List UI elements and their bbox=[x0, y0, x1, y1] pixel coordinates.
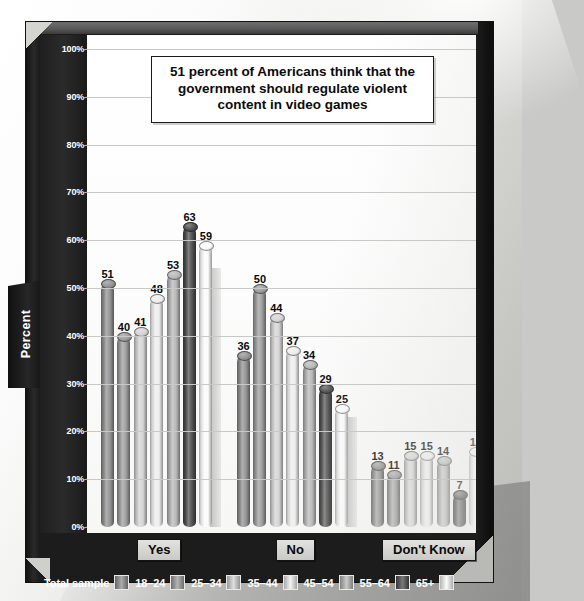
bar[interactable]: 15 bbox=[404, 455, 417, 527]
y-axis-tick-label: 30% bbox=[67, 379, 84, 389]
bar[interactable]: 15 bbox=[420, 455, 433, 527]
bar-value-label: 50 bbox=[254, 273, 266, 285]
chart-title: 51 percent of Americans think that the g… bbox=[160, 64, 425, 114]
bar[interactable]: 44 bbox=[270, 317, 283, 527]
legend-label: 35–44 bbox=[247, 577, 277, 589]
legend-swatch bbox=[114, 575, 129, 590]
frame-top-bevel bbox=[26, 22, 493, 34]
bar[interactable]: 14 bbox=[437, 460, 450, 527]
bar-body bbox=[303, 364, 316, 527]
legend-entry[interactable]: 65+ bbox=[416, 575, 454, 590]
gridline bbox=[87, 431, 476, 432]
title-callout-box: 51 percent of Americans think that the g… bbox=[151, 56, 434, 123]
bar-value-label: 36 bbox=[237, 340, 249, 352]
bar-value-label: 51 bbox=[101, 268, 113, 280]
legend-label: 45–54 bbox=[304, 577, 334, 589]
gridline bbox=[87, 192, 476, 193]
y-axis-title-tab: Percent bbox=[8, 280, 44, 388]
legend-swatch bbox=[339, 575, 354, 590]
bar-body bbox=[371, 465, 384, 527]
y-axis-tick-label: 70% bbox=[67, 187, 84, 197]
legend-entry[interactable]: 45–54 bbox=[304, 575, 354, 590]
bar[interactable]: 29 bbox=[319, 388, 332, 527]
legend-entry[interactable]: Total sample bbox=[44, 575, 129, 590]
bar-top-cap bbox=[469, 447, 476, 457]
legend-entry[interactable]: 35–44 bbox=[247, 575, 297, 590]
bar[interactable]: 16 bbox=[469, 451, 476, 527]
bar-value-label: 63 bbox=[183, 211, 195, 223]
legend-entry[interactable]: 25–34 bbox=[191, 575, 241, 590]
bar-top-cap bbox=[117, 332, 132, 342]
bar[interactable]: 34 bbox=[303, 364, 316, 527]
legend-entry[interactable]: 55–64 bbox=[360, 575, 410, 590]
legend-swatch bbox=[439, 575, 454, 590]
bar-top-cap bbox=[183, 222, 198, 232]
bar[interactable]: 13 bbox=[371, 465, 384, 527]
bar-value-label: 14 bbox=[437, 445, 449, 457]
legend-label: Total sample bbox=[44, 577, 109, 589]
bar[interactable]: 7 bbox=[453, 494, 466, 527]
gridline bbox=[87, 240, 476, 241]
bar[interactable]: 48 bbox=[150, 298, 163, 527]
bar[interactable]: 25 bbox=[335, 408, 348, 528]
bar[interactable]: 36 bbox=[237, 355, 250, 527]
bar-body bbox=[183, 226, 196, 527]
bar-body bbox=[335, 408, 348, 528]
legend-swatch bbox=[283, 575, 298, 590]
bar-top-cap bbox=[371, 461, 386, 471]
bar[interactable]: 11 bbox=[387, 474, 400, 527]
gridline bbox=[87, 145, 476, 146]
bar-top-cap bbox=[150, 294, 165, 304]
category-label-no: No bbox=[276, 539, 315, 561]
bar-top-cap bbox=[167, 270, 182, 280]
category-label-don-t-know: Don't Know bbox=[382, 539, 476, 561]
bar-body bbox=[101, 283, 114, 527]
bar-top-cap bbox=[199, 241, 214, 251]
gridline bbox=[87, 384, 476, 385]
y-axis-tick-label: 100% bbox=[62, 44, 84, 54]
bar-value-label: 7 bbox=[456, 479, 462, 491]
category-label-yes: Yes bbox=[137, 539, 181, 561]
bar-value-label: 15 bbox=[421, 440, 433, 452]
bar-body bbox=[134, 331, 147, 527]
gridline bbox=[87, 336, 476, 337]
legend-label: 55–64 bbox=[360, 577, 390, 589]
bar-body bbox=[253, 288, 266, 527]
bar-body bbox=[387, 474, 400, 527]
bar-value-label: 25 bbox=[336, 393, 348, 405]
legend-label: 25–34 bbox=[191, 577, 221, 589]
bar[interactable]: 53 bbox=[167, 274, 180, 527]
bar-value-label: 15 bbox=[404, 440, 416, 452]
bar[interactable]: 37 bbox=[286, 350, 299, 527]
y-axis-tick-label: 10% bbox=[67, 474, 84, 484]
bar-body bbox=[286, 350, 299, 527]
y-axis-tick-label: 40% bbox=[67, 331, 84, 341]
bar-body bbox=[150, 298, 163, 527]
bar-value-label: 53 bbox=[167, 259, 179, 271]
bar[interactable]: 51 bbox=[101, 283, 114, 527]
bar-top-cap bbox=[237, 351, 252, 361]
category-label-bar: YesNoDon't Know bbox=[87, 537, 476, 564]
bar-value-label: 37 bbox=[287, 335, 299, 347]
bar[interactable]: 63 bbox=[183, 226, 196, 527]
y-axis-tick-label: 50% bbox=[67, 283, 84, 293]
bar[interactable]: 41 bbox=[134, 331, 147, 527]
legend-entry[interactable]: 18–24 bbox=[135, 575, 185, 590]
bar-body bbox=[167, 274, 180, 527]
bar-body bbox=[404, 455, 417, 527]
y-axis-title: Percent bbox=[19, 310, 33, 359]
frame-right-bevel bbox=[478, 22, 493, 582]
bar-body bbox=[469, 451, 476, 527]
bar-body bbox=[420, 455, 433, 527]
legend-swatch bbox=[395, 575, 410, 590]
bar-top-cap bbox=[453, 490, 468, 500]
y-axis-tick-label: 0% bbox=[71, 522, 84, 532]
y-axis-tick-label: 90% bbox=[67, 92, 84, 102]
bar-value-label: 40 bbox=[118, 321, 130, 333]
legend-label: 65+ bbox=[416, 577, 434, 589]
legend-label: 18–24 bbox=[135, 577, 165, 589]
legend-swatch bbox=[226, 575, 241, 590]
legend-swatch bbox=[170, 575, 185, 590]
bar[interactable]: 50 bbox=[253, 288, 266, 527]
bar-body bbox=[437, 460, 450, 527]
